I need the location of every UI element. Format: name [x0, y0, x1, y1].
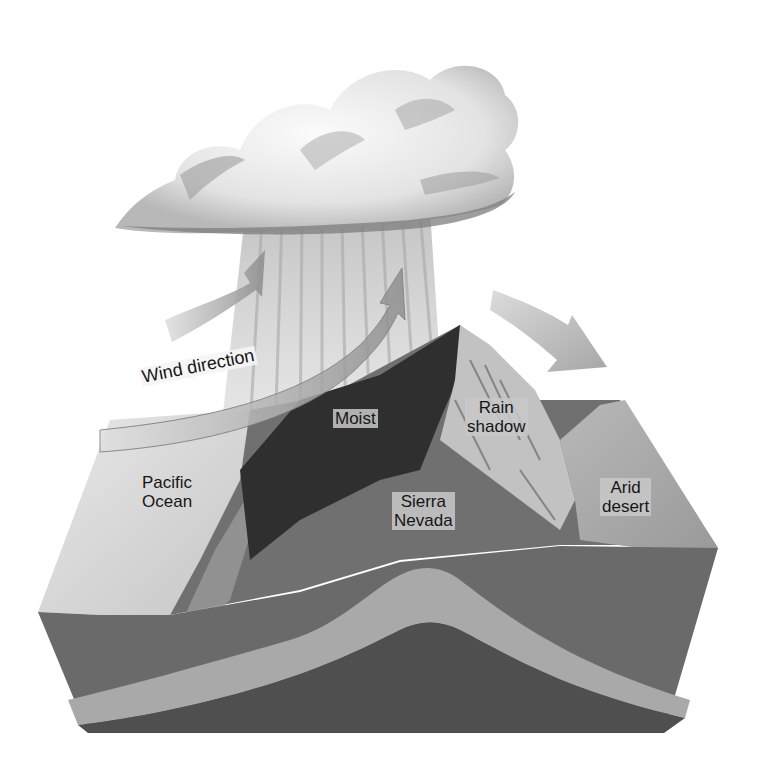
label-arid-line1: Arid: [602, 478, 649, 497]
rain-cloud: [115, 66, 518, 235]
label-pacific-line1: Pacific: [142, 473, 192, 492]
label-pacific-line2: Ocean: [142, 492, 192, 511]
label-sierra-nevada: Sierra Nevada: [392, 492, 455, 530]
rain-shadow-diagram: Wind direction Moist Rain shadow Pacific…: [0, 0, 760, 761]
label-sierra-line2: Nevada: [394, 511, 453, 530]
label-pacific-ocean: Pacific Ocean: [142, 473, 192, 511]
diagram-illustration: [0, 0, 760, 761]
arid-desert-surface: [560, 400, 718, 548]
label-arid-line2: desert: [602, 497, 649, 516]
label-rain-shadow-line1: Rain: [467, 398, 526, 417]
label-sierra-line1: Sierra: [394, 492, 453, 511]
label-rain-shadow: Rain shadow: [465, 398, 528, 436]
label-rain-shadow-line2: shadow: [467, 417, 526, 436]
label-moist: Moist: [333, 409, 378, 428]
label-moist-text: Moist: [335, 409, 376, 428]
label-arid-desert: Arid desert: [600, 478, 651, 516]
wind-arrow-descending: [490, 290, 607, 372]
